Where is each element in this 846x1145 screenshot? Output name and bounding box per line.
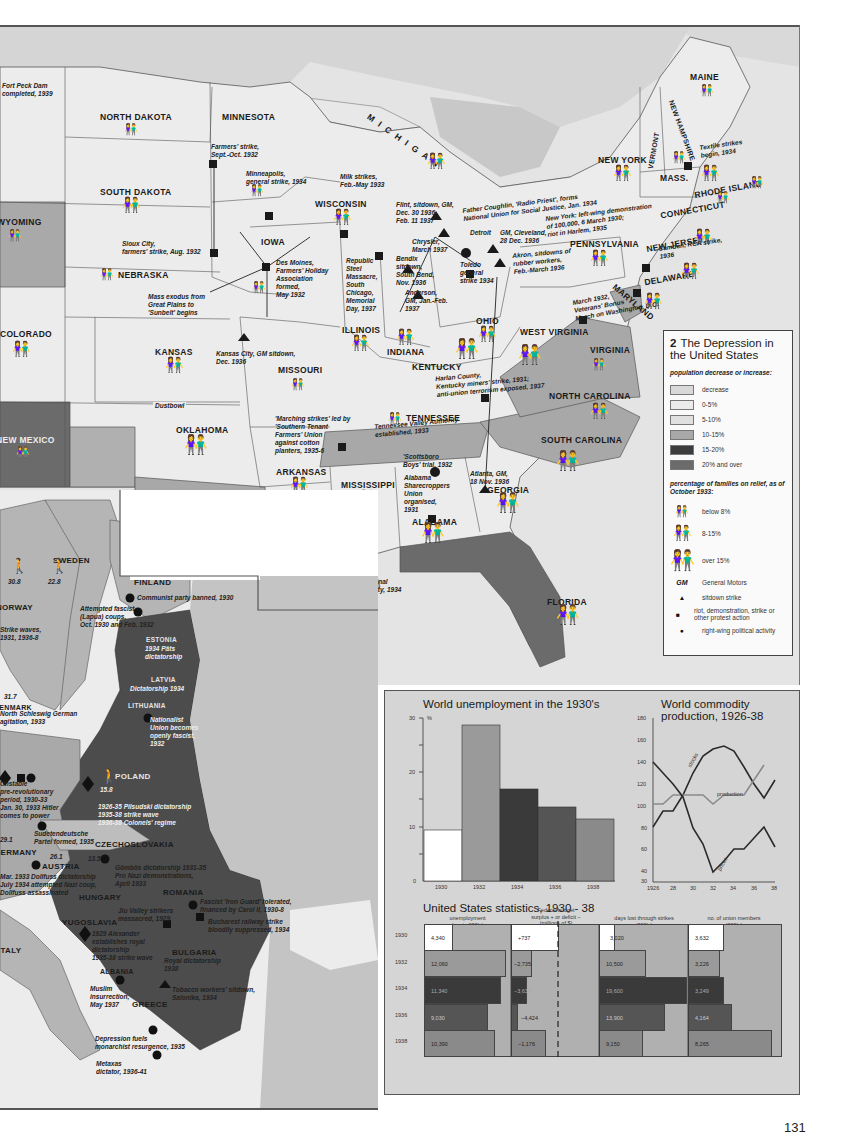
family-medium-icon: 👫 bbox=[478, 328, 497, 339]
state-label: COLORADO bbox=[0, 329, 52, 339]
family-small-icon: 👫 bbox=[100, 269, 114, 280]
legend-row-5-10: 5-10% bbox=[670, 412, 786, 427]
country-label: LATVIA bbox=[151, 676, 176, 683]
family-medium-icon: 👫 bbox=[165, 359, 184, 370]
map-annotation: Jiu Valley strikers massacred, 1929 bbox=[118, 907, 173, 923]
family-medium-icon: 👫 bbox=[590, 405, 609, 416]
country-label: AUSTRIA bbox=[42, 862, 80, 871]
atlas-page: NORTH DAKOTA 👫 MINNESOTA SOUTH DAKOTA 👫 … bbox=[0, 0, 846, 1145]
family-large-icon: 👫 bbox=[518, 349, 542, 360]
legend-row-sitdown: ▲sitdown strike bbox=[670, 590, 786, 605]
state-label: MASS. bbox=[660, 173, 688, 183]
country-label: NORWAY bbox=[0, 603, 33, 612]
table-lines bbox=[385, 691, 801, 1096]
gm-abbrev: GM bbox=[670, 579, 694, 586]
map-annotation: Unstable pre-revolutionary period, 1930-… bbox=[0, 780, 59, 820]
map-annotation: Fort Peck Dam completed, 1939 bbox=[2, 82, 53, 98]
legend-row-relief-small: 👫below 8% bbox=[670, 501, 786, 521]
family-small-icon: 👫 bbox=[716, 192, 730, 203]
country-label: ALBANIA bbox=[100, 968, 134, 975]
family-large-icon: 👫 bbox=[455, 343, 479, 354]
map-annotation: Nationalist Union becomes openly fascist… bbox=[150, 716, 198, 748]
family-large-icon: 👫 bbox=[496, 497, 520, 508]
legend-row-10-15: 10-15% bbox=[670, 427, 786, 442]
map-annotation: Anderson, GM, Jan.-Feb. 1937 bbox=[405, 289, 448, 313]
map-annotation: Mar. 1933 Dollfuss dictatorship July 193… bbox=[0, 873, 96, 897]
legend-row-decrease: decrease bbox=[670, 382, 786, 397]
map-annotation: Bendix sitdown, South Bend, Nov. 1936 bbox=[396, 255, 434, 287]
map-legend: 2The Depression in the United States pop… bbox=[663, 330, 793, 656]
map-annotation: Attempted fascist (Lapua) coups, Oct. 19… bbox=[80, 605, 154, 629]
legend-row-20-over: 20% and over bbox=[670, 457, 786, 472]
unemployment-figure: 22.8 bbox=[48, 578, 61, 586]
map-annotation: 1929 Alexander establishes royal dictato… bbox=[92, 930, 153, 962]
unemployment-figure: 13.5 bbox=[88, 855, 101, 863]
unemployment-figure: 30.8 bbox=[8, 578, 21, 586]
family-medium-icon: 👫 bbox=[670, 524, 694, 542]
state-label: NORTH DAKOTA bbox=[100, 112, 172, 122]
family-small-icon: 👫 bbox=[700, 85, 714, 96]
map-annotation: Republic Steel Massacre, South Chicago, … bbox=[346, 257, 377, 313]
unemployment-figure: 29.1 bbox=[0, 836, 13, 844]
map-annotation: Chrysler, March 1937 bbox=[412, 238, 447, 254]
dustbowl-label: Dustbowl bbox=[153, 402, 186, 410]
page-number: 131 bbox=[784, 1120, 806, 1135]
statistics-panel: World unemployment in the 1930's 30 % 20… bbox=[384, 690, 800, 1095]
state-label: MINNESOTA bbox=[222, 112, 275, 122]
square-icon: ■ bbox=[670, 611, 686, 618]
map-annotation: Alabama Sharecroppers Union organised, 1… bbox=[404, 474, 450, 514]
family-medium-icon: 👫 bbox=[427, 155, 446, 166]
country-label: BULGARIA bbox=[172, 948, 217, 957]
state-label: KENTUCKY bbox=[412, 362, 462, 372]
map-annotation: Communist party banned, 1930 bbox=[137, 594, 233, 602]
family-large-icon: 👫 bbox=[670, 548, 694, 572]
family-small-icon: 👫 bbox=[592, 359, 606, 370]
family-medium-icon: 👫 bbox=[290, 479, 309, 490]
family-medium-icon: 👫 bbox=[12, 343, 31, 354]
texas-panhandle-shape bbox=[70, 427, 135, 487]
unemployment-figure: 26.1 bbox=[50, 853, 63, 861]
map-annotation: Akron, sitdowns of rubber workers, Feb.-… bbox=[512, 247, 572, 276]
state-label: VIRGINIA bbox=[590, 345, 630, 355]
map-annotation: Minneapolis, general strike, 1934 bbox=[246, 170, 306, 186]
family-small-icon: 👫 bbox=[750, 177, 764, 188]
state-label: PENNSYLVANIA bbox=[570, 239, 639, 249]
legend-row-relief-large: 👫over 15% bbox=[670, 545, 786, 575]
florida-shape bbox=[400, 532, 565, 667]
family-large-icon: 👫 bbox=[701, 167, 720, 178]
state-label: INDIANA bbox=[387, 347, 425, 357]
country-label: GREECE bbox=[132, 1000, 168, 1009]
state-label: IOWA bbox=[261, 237, 285, 247]
legend-row-riot: ■riot, demonstration, strike or other pr… bbox=[670, 605, 786, 623]
country-label: FINLAND bbox=[134, 578, 171, 587]
family-medium-icon: 👫 bbox=[681, 265, 700, 276]
family-small-icon: 👫 bbox=[8, 230, 22, 241]
map-annotation: Flint, sitdown, GM, Dec. 30 1936- Feb. 1… bbox=[396, 201, 454, 225]
person-icon: 🚶 bbox=[100, 770, 119, 781]
map-annotation: Mass exodus from Great Plains to 'Sunbel… bbox=[148, 293, 205, 317]
legend-row-rightwing: ●right-wing political activity bbox=[670, 623, 786, 638]
map-annotation: Muslim insurrection, May 1937 bbox=[90, 985, 129, 1009]
map-annotation: Sioux City, farmers' strike, Aug. 1932 bbox=[122, 240, 201, 256]
map-annotation: Gömbös dictatorship 1931-35 Pro Nazi dem… bbox=[115, 864, 206, 888]
population-heading: population decrease or increase: bbox=[670, 369, 786, 377]
state-label: NEW MEXICO bbox=[0, 435, 55, 445]
relief-heading: percentage of families on relief, as of … bbox=[670, 480, 786, 496]
country-label: GERMANY bbox=[0, 848, 37, 857]
map-annotation: GM, Cleveland, 28 Dec. 1936 bbox=[500, 229, 547, 245]
map-annotation: 'Marching strikes' led by 'Southern Tena… bbox=[275, 415, 350, 455]
unemployment-figure: 15.8 bbox=[100, 786, 113, 794]
map-annotation: Detroit bbox=[470, 229, 491, 237]
state-label: SOUTH CAROLINA bbox=[541, 435, 622, 445]
family-medium-icon: 👫 bbox=[333, 211, 352, 222]
map-annotation: Kansas City, GM sitdown, Dec. 1936 bbox=[216, 350, 295, 366]
family-medium-icon: 👫 bbox=[396, 331, 415, 342]
map-annotation: Tobacco workers' sitdown, Salonika, 1934 bbox=[172, 986, 255, 1002]
state-label: MISSOURI bbox=[278, 365, 322, 375]
map-annotation: Milk strikes, Feb.-May 1933 bbox=[340, 173, 384, 189]
map-annotation: 1926-35 Pilsudski dictatorship 1935-38 s… bbox=[98, 803, 191, 827]
family-small-icon: 👫 bbox=[672, 152, 686, 163]
country-label: ROMANIA bbox=[163, 888, 203, 897]
unemployment-figure: 31.7 bbox=[4, 693, 17, 701]
person-icon: 🚶 bbox=[50, 560, 69, 571]
